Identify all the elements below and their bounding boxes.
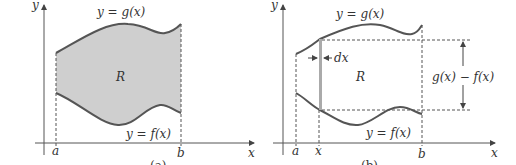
b-label-b: b bbox=[418, 147, 426, 161]
f-label-b: y = f(x) bbox=[365, 126, 411, 140]
panel-a: y x y = g(x) y = f(x) R a b (a) bbox=[31, 0, 255, 165]
b-label-a: b bbox=[177, 146, 185, 160]
a-label-b: a bbox=[292, 144, 299, 158]
height-label: g(x) − f(x) bbox=[432, 70, 494, 84]
dx-label: dx bbox=[334, 51, 349, 65]
curve-f-b bbox=[296, 93, 422, 125]
y-axis-label-a: y bbox=[31, 0, 39, 12]
region-label-a: R bbox=[115, 70, 125, 84]
x-axis-label-a: x bbox=[248, 146, 255, 160]
caption-a: (a) bbox=[150, 159, 167, 165]
f-label-a: y = f(x) bbox=[125, 127, 171, 141]
g-label-b: y = g(x) bbox=[335, 7, 385, 21]
region-label-b: R bbox=[355, 70, 365, 84]
area-between-curves-figure: y x y = g(x) y = f(x) R a b (a) y x y = bbox=[0, 0, 516, 165]
y-axis-label-b: y bbox=[270, 0, 278, 12]
x-axis-label-b: x bbox=[491, 146, 498, 160]
a-label-a: a bbox=[52, 144, 59, 158]
g-label-a: y = g(x) bbox=[96, 5, 146, 19]
curve-g-b bbox=[296, 24, 422, 54]
caption-b: (b) bbox=[361, 159, 378, 165]
panel-b: y x y = g(x) y = f(x) R dx g(x) − f(x) a… bbox=[270, 0, 498, 165]
x-label-b: x bbox=[315, 144, 322, 158]
dx-strip bbox=[319, 39, 322, 110]
